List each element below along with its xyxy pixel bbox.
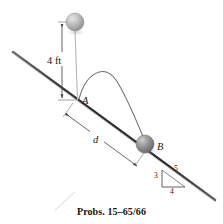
distance-dimension-group [63,103,146,166]
ball-drop-path [75,30,78,100]
slope-triangle-run-label: 4 [170,188,174,196]
point-a-label: A [82,96,88,107]
ball-b-sphere [136,135,154,153]
physics-figure: 4 ft A B d 3 4 5 Probs. 15–65/66 [0,0,223,224]
slope-triangle-rise-label: 3 [154,172,158,180]
distance-extension-a [63,103,73,117]
figure-caption: Probs. 15–65/66 [0,206,223,217]
trajectory-group [79,72,144,139]
drop-path-group [75,30,78,100]
incline-surface [13,52,215,201]
figure-diagram-canvas [0,0,223,224]
point-b-label: B [157,142,163,153]
height-label: 4 ft [47,56,61,67]
slope-triangle-hypotenuse-label: 5 [174,165,178,173]
incline-line [13,52,215,200]
ball-top-sphere [66,13,84,31]
projectile-trajectory [79,72,144,139]
distance-label: d [93,135,98,146]
incline-highlight [13,53,215,201]
